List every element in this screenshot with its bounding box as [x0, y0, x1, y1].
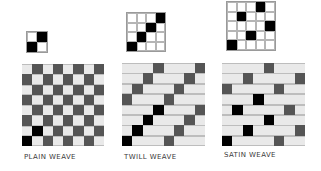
- weft-thread-cell: [253, 125, 264, 136]
- weft-thread-cell: [53, 136, 64, 147]
- unit-cell: [265, 31, 275, 41]
- unit-cell: [27, 42, 37, 52]
- weft-thread-cell: [232, 125, 243, 136]
- weft-thread-cell: [295, 94, 306, 105]
- warp-thread-cell: [73, 126, 84, 137]
- unit-cell: [246, 12, 256, 22]
- weft-thread-cell: [274, 105, 285, 116]
- weft-thread-cell: [274, 94, 285, 105]
- warp-thread-cell: [184, 73, 195, 84]
- weft-thread-cell: [222, 94, 233, 105]
- warp-thread-cell: [53, 85, 64, 96]
- weft-thread-cell: [295, 136, 306, 147]
- weft-thread-cell: [122, 84, 133, 95]
- unit-cell: [227, 21, 237, 31]
- weft-thread-cell: [295, 105, 306, 116]
- weft-thread-cell: [73, 74, 84, 85]
- plain-weave-label: PLAIN WEAVE: [24, 153, 76, 161]
- unit-cell: [137, 13, 147, 23]
- warp-thread-cell: [22, 74, 33, 85]
- unit-cell: [265, 12, 275, 22]
- weft-thread-cell: [43, 85, 54, 96]
- weft-thread-cell: [143, 84, 154, 95]
- weft-thread-cell: [153, 115, 164, 126]
- weft-thread-cell: [73, 95, 84, 106]
- weft-thread-cell: [153, 94, 164, 105]
- weft-thread-cell: [284, 125, 295, 136]
- unit-cell: [227, 2, 237, 12]
- unit-cell: [156, 13, 166, 23]
- warp-thread-cell: [84, 95, 95, 106]
- unit-cell: [237, 21, 247, 31]
- weft-thread-cell: [84, 85, 95, 96]
- warp-thread-cell: [132, 84, 143, 95]
- warp-thread-cell: [43, 95, 54, 106]
- weft-thread-cell: [284, 73, 295, 84]
- weft-thread-cell: [243, 63, 254, 74]
- warp-thread-cell: [295, 125, 306, 136]
- unit-cell: [246, 21, 256, 31]
- unit-cell: [146, 13, 156, 23]
- warp-thread-cell: [253, 94, 264, 105]
- weft-thread-cell: [295, 63, 306, 74]
- weft-thread-cell: [153, 73, 164, 84]
- warp-thread-cell: [232, 105, 243, 116]
- weft-thread-cell: [243, 84, 254, 95]
- weft-thread-cell: [222, 73, 233, 84]
- weft-thread-cell: [53, 115, 64, 126]
- warp-thread-cell: [22, 115, 33, 126]
- unit-cell: [137, 32, 147, 42]
- weft-thread-cell: [143, 125, 154, 136]
- weft-thread-cell: [63, 64, 74, 75]
- weft-thread-cell: [264, 84, 275, 95]
- weft-thread-cell: [253, 84, 264, 95]
- weft-thread-cell: [132, 94, 143, 105]
- weft-thread-cell: [274, 125, 285, 136]
- warp-thread-cell: [243, 73, 254, 84]
- weft-thread-cell: [284, 115, 295, 126]
- warp-thread-cell: [122, 136, 133, 147]
- warp-thread-cell: [63, 74, 74, 85]
- warp-thread-cell: [195, 105, 206, 116]
- warp-thread-cell: [143, 115, 154, 126]
- weft-thread-cell: [174, 73, 185, 84]
- weft-thread-cell: [153, 136, 164, 147]
- weft-thread-cell: [143, 63, 154, 74]
- weft-thread-cell: [22, 126, 33, 137]
- weft-thread-cell: [153, 84, 164, 95]
- warp-thread-cell: [222, 84, 233, 95]
- weft-thread-cell: [164, 73, 175, 84]
- weft-thread-cell: [63, 85, 74, 96]
- warp-thread-cell: [153, 63, 164, 74]
- weft-thread-cell: [132, 73, 143, 84]
- weft-thread-cell: [184, 94, 195, 105]
- weft-thread-cell: [232, 115, 243, 126]
- unit-cell: [237, 12, 247, 22]
- warp-thread-cell: [243, 125, 254, 136]
- plain-weave-fabric-grid: [22, 64, 104, 146]
- weft-thread-cell: [195, 136, 206, 147]
- satin-weave-label: SATIN WEAVE: [224, 151, 276, 159]
- weft-thread-cell: [43, 126, 54, 137]
- weft-thread-cell: [132, 136, 143, 147]
- warp-thread-cell: [274, 84, 285, 95]
- weft-thread-cell: [264, 73, 275, 84]
- warp-thread-cell: [143, 73, 154, 84]
- weft-thread-cell: [164, 125, 175, 136]
- weft-thread-cell: [122, 115, 133, 126]
- unit-cell: [246, 40, 256, 50]
- weft-thread-cell: [22, 64, 33, 75]
- weft-thread-cell: [243, 94, 254, 105]
- weft-thread-cell: [232, 84, 243, 95]
- warp-thread-cell: [94, 85, 105, 96]
- weft-thread-cell: [264, 105, 275, 116]
- weft-thread-cell: [73, 136, 84, 147]
- weft-thread-cell: [174, 63, 185, 74]
- weft-thread-cell: [164, 63, 175, 74]
- weft-thread-cell: [243, 136, 254, 147]
- weft-thread-cell: [253, 63, 264, 74]
- unit-cell: [127, 23, 137, 33]
- weft-thread-cell: [284, 94, 295, 105]
- weft-thread-cell: [143, 105, 154, 116]
- unit-cell: [127, 42, 137, 52]
